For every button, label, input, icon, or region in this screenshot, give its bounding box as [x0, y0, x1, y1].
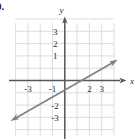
x-axis-arrow-right-icon	[120, 78, 127, 83]
y-tick-label-3: 3	[53, 27, 58, 37]
x-tick-label-3: 3	[99, 84, 104, 94]
y-tick-label-neg2: -2	[51, 101, 59, 111]
x-tick-label-neg1: -1	[49, 84, 57, 94]
coordinate-plane: 3 2 1 -2 -3 -3 -1 2 3 y x	[0, 0, 136, 139]
x-axis-label: x	[129, 76, 134, 86]
y-tick-label-neg3: -3	[51, 113, 59, 123]
graph-figure: 0.	[0, 0, 136, 139]
y-tick-label-1: 1	[53, 51, 58, 61]
y-tick-label-2: 2	[53, 39, 58, 49]
x-tick-label-neg3: -3	[24, 84, 32, 94]
axis-lines	[9, 20, 120, 140]
y-axis-label: y	[59, 5, 64, 15]
x-tick-label-2: 2	[87, 84, 92, 94]
